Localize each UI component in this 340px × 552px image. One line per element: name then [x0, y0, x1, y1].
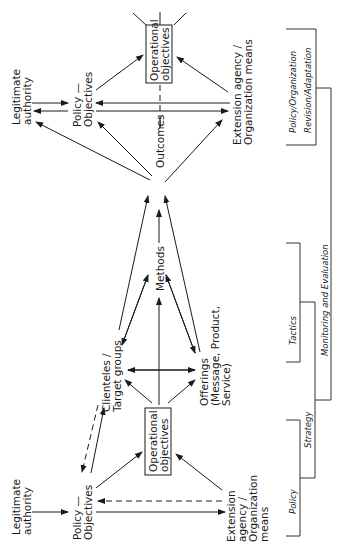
clienteles-line2: Target groups — [111, 340, 123, 413]
phase-label-revision-2: Revision/Adaptation — [303, 48, 313, 133]
phase-label-policy: Policy — [288, 488, 298, 514]
top-operational-objectives-line2: objectives — [159, 28, 171, 81]
top-arrows — [32, 55, 230, 111]
phase-label-monitoring: Monitoring and Evaluation — [320, 244, 330, 356]
methods-label: Methods — [154, 246, 166, 291]
extension-planning-diagram: Operational objectives Legitimate author… — [0, 0, 340, 552]
clientele-offering-arrows — [125, 370, 195, 403]
top-extension-agency-line2: Organization means — [242, 39, 254, 145]
bottom-arrows — [32, 408, 225, 512]
bottom-policy-objectives-line2: Objectives — [82, 485, 94, 540]
offerings-line3: Service) — [220, 363, 232, 406]
phase-label-revision-1: Policy/Organization — [288, 51, 298, 133]
methods-arrows — [119, 196, 200, 405]
phase-label-tactics: Tactics — [288, 315, 298, 345]
top-policy-objectives-line2: Objectives — [82, 72, 94, 127]
outcomes-arrows — [36, 120, 222, 182]
bottom-extension-line4: means — [258, 507, 270, 542]
phase-label-strategy: Strategy — [303, 411, 313, 448]
top-legitimate-authority-line2: authority — [21, 77, 33, 125]
bottom-operational-objectives-line2: objectives — [158, 419, 170, 472]
bottom-legitimate-authority-line2: authority — [21, 487, 33, 535]
